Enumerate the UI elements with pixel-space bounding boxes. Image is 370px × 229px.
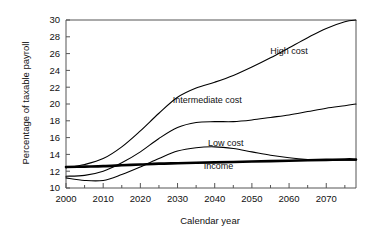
y-tick-label: 24: [49, 65, 60, 76]
x-tick-label: 2050: [241, 193, 262, 204]
x-axis-title: Calendar year: [180, 215, 240, 226]
series-label-high-cost: High cost: [270, 46, 308, 56]
y-tick-label: 14: [49, 149, 60, 160]
y-tick-label: 20: [49, 98, 60, 109]
x-tick-label: 2010: [93, 193, 114, 204]
y-tick-label: 26: [49, 48, 60, 59]
y-tick-label: 28: [49, 31, 60, 42]
line-chart: 1012141618202224262830 20002010202020302…: [0, 0, 370, 229]
y-tick-label: 10: [49, 182, 60, 193]
y-tick-label: 18: [49, 115, 60, 126]
y-tick-label: 30: [49, 14, 60, 25]
series-label-low-cost: Low cost: [208, 138, 244, 148]
x-tick-label: 2040: [204, 193, 225, 204]
series-label-income: Income: [204, 161, 234, 171]
y-axis-title: Percentage of taxable payroll: [20, 41, 31, 164]
x-tick-label: 2000: [55, 193, 76, 204]
chart-page: 1012141618202224262830 20002010202020302…: [0, 0, 370, 229]
x-tick-label: 2060: [279, 193, 300, 204]
y-tick-label: 22: [49, 82, 60, 93]
x-axis-ticks: 20002010202020302040205020602070: [55, 183, 344, 204]
series-label-intermediate-cost: Intermediate cost: [173, 95, 243, 105]
x-tick-label: 2030: [167, 193, 188, 204]
y-tick-label: 16: [49, 132, 60, 143]
x-tick-label: 2070: [316, 193, 337, 204]
y-tick-label: 12: [49, 166, 60, 177]
series-annotations: High costIntermediate costLow costIncome: [173, 46, 309, 171]
x-tick-label: 2020: [130, 193, 151, 204]
